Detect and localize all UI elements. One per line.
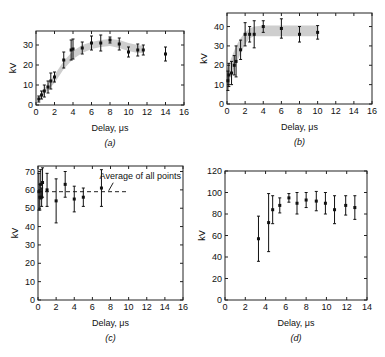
point-marker xyxy=(305,199,308,202)
y-tick-label: 50 xyxy=(25,203,35,213)
x-tick-label: 4 xyxy=(72,302,77,312)
panel-label: (a) xyxy=(105,138,116,148)
data-point xyxy=(257,216,260,261)
point-marker xyxy=(287,196,290,199)
data-point xyxy=(267,194,270,252)
x-tick-label: 16 xyxy=(179,107,189,117)
x-axis-label: Delay, μs xyxy=(277,318,315,328)
x-tick-label: 14 xyxy=(160,302,170,312)
point-marker xyxy=(253,33,256,36)
y-tick-label: 10 xyxy=(214,80,224,90)
y-tick-label: 40 xyxy=(25,222,35,232)
point-marker xyxy=(41,181,44,184)
panel-label: (c) xyxy=(105,333,116,343)
y-axis-label: kV xyxy=(10,228,20,239)
point-marker xyxy=(267,221,270,224)
point-marker xyxy=(227,73,230,76)
point-marker xyxy=(118,43,121,46)
point-marker xyxy=(40,94,43,97)
point-marker xyxy=(136,49,139,52)
y-tick-label: 30 xyxy=(25,240,35,250)
x-tick-label: 4 xyxy=(263,302,268,312)
y-axis-label: kV xyxy=(197,230,207,241)
data-point xyxy=(333,196,336,224)
point-marker xyxy=(230,72,233,75)
x-tick-label: 6 xyxy=(283,302,288,312)
y-tick-label: 100 xyxy=(207,188,222,198)
data-point xyxy=(99,35,102,51)
figure-canvas: 02468101214160102030kVDelay, μs(a)024681… xyxy=(0,0,385,357)
point-marker xyxy=(49,80,52,83)
point-marker xyxy=(257,237,260,240)
data-point xyxy=(324,193,327,215)
point-marker xyxy=(99,42,102,45)
x-tick-label: 0 xyxy=(224,106,229,116)
y-tick-label: 40 xyxy=(212,252,222,262)
y-tick-label: 60 xyxy=(25,185,35,195)
y-tick-label: 10 xyxy=(25,277,35,287)
point-marker xyxy=(37,98,40,101)
chart-panel-d: 02468101214020406080100120kVDelay, μs(d) xyxy=(197,166,372,343)
point-marker xyxy=(127,51,130,54)
point-marker xyxy=(333,208,336,211)
y-tick-label: 20 xyxy=(25,258,35,268)
panel-label: (b) xyxy=(294,137,305,147)
point-marker xyxy=(73,198,76,201)
x-tick-label: 6 xyxy=(279,106,284,116)
data-point xyxy=(73,186,76,212)
point-marker xyxy=(100,187,103,190)
point-marker xyxy=(46,188,49,191)
point-marker xyxy=(278,204,281,207)
annotation-pointer xyxy=(109,183,114,191)
x-tick-label: 6 xyxy=(89,107,94,117)
chart-panel-a: 02468101214160102030kVDelay, μs(a) xyxy=(8,31,189,148)
x-tick-label: 8 xyxy=(304,302,309,312)
point-marker xyxy=(353,206,356,209)
y-tick-label: 120 xyxy=(207,166,222,176)
data-point xyxy=(278,198,281,213)
x-tick-label: 14 xyxy=(349,106,359,116)
x-tick-label: 14 xyxy=(160,107,170,117)
data-point xyxy=(64,172,67,198)
point-marker xyxy=(53,76,56,79)
point-marker xyxy=(324,202,327,205)
y-tick-label: 20 xyxy=(23,60,33,70)
x-tick-label: 16 xyxy=(178,302,188,312)
point-marker xyxy=(233,64,236,67)
point-marker xyxy=(72,48,75,51)
point-marker xyxy=(82,196,85,199)
y-tick-label: 80 xyxy=(212,209,222,219)
y-axis-label: kV xyxy=(199,53,209,64)
point-marker xyxy=(280,27,283,30)
data-point xyxy=(296,193,299,215)
x-tick-label: 12 xyxy=(142,302,152,312)
y-tick-label: 40 xyxy=(214,22,224,32)
point-marker xyxy=(55,199,58,202)
point-marker xyxy=(315,200,318,203)
x-tick-label: 4 xyxy=(261,106,266,116)
data-point xyxy=(164,47,167,61)
x-tick-label: 2 xyxy=(243,302,248,312)
x-tick-label: 16 xyxy=(367,106,377,116)
x-tick-label: 4 xyxy=(70,107,75,117)
data-point xyxy=(82,188,85,206)
data-point xyxy=(271,196,274,224)
point-marker xyxy=(262,25,265,28)
point-marker xyxy=(109,39,112,42)
y-axis-label: kV xyxy=(8,63,18,74)
point-marker xyxy=(43,90,46,93)
x-axis-label: Delay, μs xyxy=(92,318,130,328)
plot-frame xyxy=(225,171,367,300)
data-point xyxy=(287,194,290,203)
y-tick-label: 0 xyxy=(28,100,33,110)
point-marker xyxy=(90,42,93,45)
x-tick-label: 12 xyxy=(142,107,152,117)
x-tick-label: 2 xyxy=(243,106,248,116)
data-point xyxy=(46,173,49,206)
chart-panel-c: 0246810121416010203040506070kVDelay, μs(… xyxy=(10,166,188,343)
x-tick-label: 10 xyxy=(313,106,323,116)
y-tick-label: 30 xyxy=(23,40,33,50)
y-tick-label: 10 xyxy=(23,80,33,90)
point-marker xyxy=(235,60,238,63)
point-marker xyxy=(316,31,319,34)
